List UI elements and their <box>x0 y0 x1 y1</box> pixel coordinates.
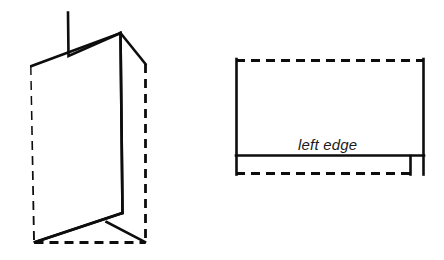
folded-panel-top-right-edge <box>121 33 146 64</box>
paper-folding-figure: left edge <box>0 0 444 260</box>
folded-view-panel <box>32 13 146 243</box>
folded-panel-face-fill <box>32 33 123 242</box>
folded-panel-bottom-right-edge <box>107 222 146 242</box>
left-edge-label: left edge <box>298 136 357 153</box>
flat-view-panel: left edge <box>236 59 424 175</box>
